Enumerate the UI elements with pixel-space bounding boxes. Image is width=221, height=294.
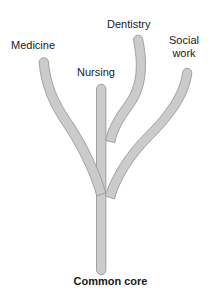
label-social-work: Social work [163,34,205,59]
tree-diagram-figure: Medicine Dentistry Social work Nursing C… [0,0,221,294]
branch-social-work-shape [105,68,191,199]
label-common-core: Common core [0,275,221,288]
label-nursing: Nursing [77,66,115,79]
label-medicine: Medicine [11,39,55,52]
label-dentistry: Dentistry [107,18,150,31]
branch-dentistry-shape [106,35,146,142]
